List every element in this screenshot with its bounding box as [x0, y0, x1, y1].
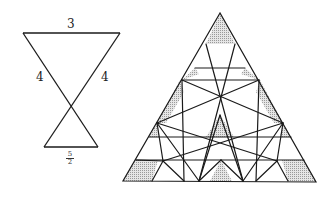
top-side-label: 3: [67, 18, 75, 30]
figure-canvas: [0, 0, 333, 199]
right-side-label: 4: [101, 71, 109, 83]
left-side-label: 4: [36, 71, 44, 83]
shaded-regions: [123, 13, 316, 182]
fraction-denominator: 2: [65, 159, 75, 166]
hourglass-figure: [23, 33, 120, 147]
bottom-side-label: 5 2: [65, 151, 75, 166]
fraction-numerator: 5: [65, 151, 75, 158]
